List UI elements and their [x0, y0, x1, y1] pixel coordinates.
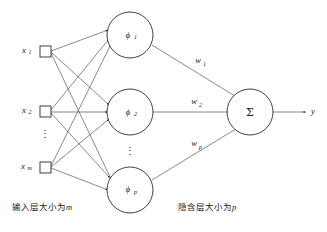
input-node-xm-subscript: m [28, 165, 33, 171]
input-node-x1-subscript: 1 [29, 49, 32, 55]
edge-x1-phi2 [51, 52, 109, 105]
input-node-x1-label: x [21, 45, 26, 55]
edge-xm-phi2 [51, 119, 109, 167]
input-node-square [40, 162, 51, 173]
input-to-hidden-edges [51, 30, 112, 190]
edge-xm-phi1 [51, 44, 111, 166]
weight-w1-subscript: 1 [203, 61, 206, 67]
input-node-x1: x 1 [21, 45, 51, 57]
hidden-node-phi2-label: ϕ [126, 107, 131, 117]
weight-w2-subscript: 2 [199, 102, 202, 108]
hidden-node-phip: ϕ p [107, 167, 153, 213]
hidden-layer-caption-var: p [232, 202, 236, 212]
input-layer-caption-text: 输入层大小为 [12, 202, 66, 212]
output-node-sum: Σ [227, 89, 273, 135]
weight-w1-label: w [195, 55, 201, 65]
input-layer-caption-var: m [66, 202, 72, 212]
weight-label-w2: w 2 [191, 96, 202, 108]
weight-wp-label: w [191, 138, 197, 148]
input-node-xm-label: x [20, 161, 25, 171]
hidden-node-phi2: ϕ 2 [107, 89, 153, 135]
weight-w2-label: w [191, 96, 197, 106]
input-node-xm: x m [20, 161, 51, 173]
output-node-sigma-label: Σ [246, 106, 254, 119]
edge-x2-phip [51, 113, 110, 178]
edge-x1-phi1 [51, 30, 108, 51]
input-layer-caption: 输入层大小为m [12, 200, 72, 212]
weight-label-w1: w 1 [195, 55, 206, 67]
input-node-square [40, 46, 51, 57]
network-diagram-canvas: x 1 x 2 ⋮ x m ϕ 1 ϕ 2 ⋮ ϕ p [0, 0, 327, 232]
input-layer-ellipsis: ⋮ [40, 128, 50, 139]
output-label-y: y [310, 106, 315, 116]
hidden-node-phip-label: ϕ [126, 184, 131, 194]
edge-x2-phi1 [51, 39, 109, 110]
hidden-layer-caption: 隐含层大小为p [178, 200, 236, 212]
input-node-square [40, 106, 51, 117]
weight-label-wp: w p [191, 138, 202, 150]
edge-xm-phip [51, 168, 108, 190]
edge-phip-sum [152, 124, 244, 180]
hidden-layer-ellipsis: ⋮ [125, 145, 135, 156]
hidden-node-phi2-subscript: 2 [134, 111, 137, 117]
hidden-node-phi1-label: ϕ [126, 30, 131, 40]
input-node-x2-subscript: 2 [29, 109, 32, 115]
hidden-layer-caption-text: 隐含层大小为 [178, 202, 232, 212]
hidden-node-phip-subscript: p [133, 189, 137, 195]
input-node-x2: x 2 [21, 105, 51, 117]
network-diagram: x 1 x 2 ⋮ x m ϕ 1 ϕ 2 ⋮ ϕ p [0, 0, 327, 232]
edge-phi1-sum [152, 45, 243, 101]
input-node-x2-label: x [21, 105, 26, 115]
hidden-node-phi1: ϕ 1 [107, 12, 153, 58]
weight-wp-subscript: p [198, 144, 202, 150]
hidden-node-phi1-subscript: 1 [134, 34, 137, 40]
